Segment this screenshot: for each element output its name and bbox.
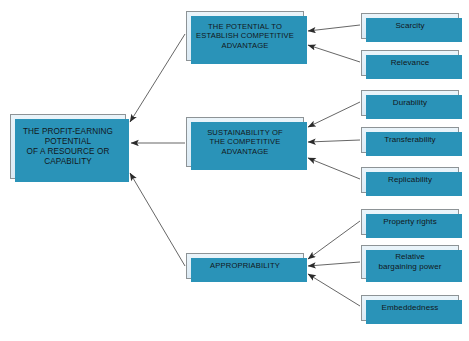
arrow-property-to-appropriability [308,221,360,259]
node-property-rights-label: Property rights [380,217,440,227]
arrow-scarcity-to-potential [308,25,360,31]
arrow-relevance-to-potential [308,45,360,62]
node-relative-bargaining-power[interactable]: Relative bargaining power [361,245,459,279]
node-root-label: THE PROFIT-EARNING POTENTIAL OF A RESOUR… [20,127,116,167]
node-scarcity-label: Scarcity [392,21,427,31]
node-replicability[interactable]: Replicability [361,167,459,193]
node-relative-bargaining-power-label: Relative bargaining power [376,252,445,272]
node-embeddedness[interactable]: Embeddedness [361,295,459,321]
node-replicability-label: Replicability [385,175,435,185]
arrow-durability-to-sustainability [308,102,360,127]
node-relevance[interactable]: Relevance [361,50,459,76]
node-property-rights[interactable]: Property rights [361,209,459,235]
node-scarcity[interactable]: Scarcity [361,13,459,39]
arrow-transferability-to-sustainability [308,140,360,142]
arrow-embeddedness-to-appropriability [308,274,360,306]
arrow-replicability-to-sustainability [308,158,360,179]
arrow-potential-to-root [130,34,185,122]
node-root[interactable]: THE PROFIT-EARNING POTENTIAL OF A RESOUR… [10,114,126,179]
diagram-canvas: THE PROFIT-EARNING POTENTIAL OF A RESOUR… [0,0,469,341]
node-durability-label: Durability [390,98,430,108]
node-potential[interactable]: THE POTENTIAL TO ESTABLISH COMPETITIVE A… [186,11,304,61]
node-appropriability[interactable]: APPROPRIABILITY [186,253,304,279]
node-appropriability-label: APPROPRIABILITY [207,261,283,270]
node-transferability[interactable]: Transferability [361,127,459,153]
node-embeddedness-label: Embeddedness [379,303,442,313]
node-relevance-label: Relevance [388,58,433,68]
node-sustainability-label: SUSTAINABILITY OF THE COMPETITIVE ADVANT… [204,128,286,156]
node-durability[interactable]: Durability [361,90,459,116]
arrow-appropriability-to-root [130,173,185,266]
node-potential-label: THE POTENTIAL TO ESTABLISH COMPETITIVE A… [193,22,297,50]
node-transferability-label: Transferability [381,135,438,145]
arrow-bargaining-to-appropriability [308,262,360,266]
node-sustainability[interactable]: SUSTAINABILITY OF THE COMPETITIVE ADVANT… [186,117,304,167]
